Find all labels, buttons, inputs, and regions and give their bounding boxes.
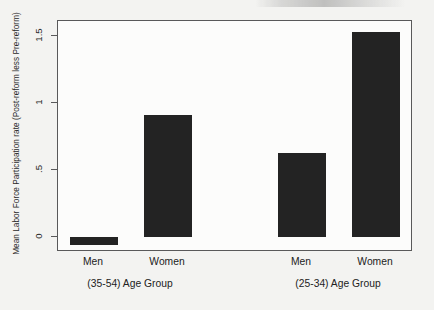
y-axis-tick-label-0: 0 [28,229,48,243]
x-axis-label-women-35-54: Women [127,256,207,267]
y-axis-tick-label-1: 1 [28,95,48,109]
y-axis-tick-label-point5: .5 [28,162,48,176]
bars-layer [58,21,411,250]
x-axis-label-men-25-34: Men [261,256,341,267]
y-axis-title: Mean Labor Force Participation rate (Pos… [12,6,21,262]
bar-women-35-54[interactable] [144,115,192,237]
x-axis-label-women-25-34: Women [335,256,415,267]
chart-figure: Mean Labor Force Participation rate (Pos… [0,0,434,310]
bar-men-35-54[interactable] [70,237,118,245]
y-axis-title-container: Mean Labor Force Participation rate (Pos… [0,0,30,275]
bar-women-25-34[interactable] [352,32,400,237]
bar-men-25-34[interactable] [278,153,326,237]
y-axis-tick-label-1point5: 1.5 [28,28,48,42]
x-axis-group-label-25-34: (25-34) Age Group [238,278,434,289]
x-axis-label-men-35-54: Men [53,256,133,267]
scan-artifact [255,0,405,7]
x-axis-group-label-35-54: (35-54) Age Group [30,278,230,289]
plot-area [57,20,412,251]
